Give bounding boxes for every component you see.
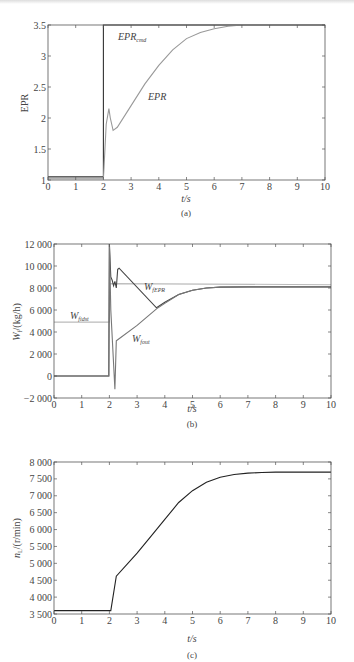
y-tick-label: 8 000	[30, 457, 53, 468]
x-tick-label: 1	[79, 615, 84, 626]
x-tick-label: 10	[326, 615, 336, 626]
y-tick-label: 8 000	[30, 283, 53, 294]
y-tick-label: −2 000	[24, 393, 52, 404]
y-tick-label: 4 500	[30, 575, 53, 586]
y-tick-label: 2 000	[30, 349, 53, 360]
axes-frame	[48, 25, 325, 180]
y-tick-label: 6 000	[30, 305, 53, 316]
y-tick-label: 1	[41, 175, 46, 186]
y-tick-label: 5 000	[30, 558, 53, 569]
y-tick-label: 10 000	[25, 261, 53, 272]
y-tick-label: 2.5	[34, 82, 47, 93]
label-w-fidst: Wfidst	[70, 310, 89, 322]
x-tick-label: 2	[107, 399, 112, 410]
x-tick-label: 6	[218, 615, 223, 626]
y-tick-label: 3.5	[34, 20, 47, 31]
series-line-epr	[48, 25, 325, 179]
x-tick-label: 6	[218, 399, 223, 410]
chart-spool-speed: 0123456789103 5004 0004 5005 0005 5006 0…	[0, 437, 354, 662]
x-tick-label: 8	[273, 615, 278, 626]
x-tick-label: 10	[320, 181, 330, 192]
x-tick-label: 9	[301, 615, 306, 626]
x-tick-label: 1	[79, 399, 84, 410]
label-w-fout: Wfout	[132, 333, 150, 345]
x-tick-label: 8	[273, 399, 278, 410]
x-axis-label: t/s	[187, 403, 197, 414]
label-epr-cmd: EPRcmd	[117, 31, 147, 43]
y-axis-label: EPR	[19, 94, 30, 113]
series-line-w-fout	[54, 244, 331, 389]
y-tick-label: 0	[47, 371, 52, 382]
x-tick-label: 5	[184, 181, 189, 192]
y-tick-label: 4 000	[30, 592, 53, 603]
chart-fuel-flow: 012345678910−2 00002 0004 0006 0008 0001…	[0, 222, 354, 432]
y-tick-label: 3 500	[30, 609, 53, 620]
x-axis-label: t/s	[187, 633, 197, 644]
y-tick-label: 4 000	[30, 327, 53, 338]
y-axis-label: nL/(r/min)	[11, 518, 23, 558]
x-tick-label: 0	[52, 399, 57, 410]
plot-area: 01234567891011.522.533.5	[34, 20, 331, 193]
x-tick-label: 7	[245, 399, 250, 410]
y-axis-label: Wf/(kg/h)	[11, 303, 23, 341]
series-line-w-fepr	[54, 244, 331, 376]
y-tick-label: 6 500	[30, 507, 53, 518]
y-tick-label: 12 000	[25, 239, 53, 250]
chart-epr: 01234567891011.522.533.5 EPR t/s (a) EPR…	[0, 0, 354, 218]
x-tick-label: 0	[46, 181, 51, 192]
x-tick-label: 7	[245, 615, 250, 626]
x-tick-label: 1	[73, 181, 78, 192]
x-tick-label: 5	[190, 615, 195, 626]
label-w-fepr: WfEPR	[144, 281, 165, 293]
y-tick-label: 3	[41, 51, 46, 62]
x-tick-label: 6	[212, 181, 217, 192]
caption-b: (b)	[187, 419, 198, 429]
x-tick-label: 4	[162, 615, 167, 626]
x-tick-label: 3	[135, 399, 140, 410]
plot-area: 012345678910−2 00002 0004 0006 0008 0001…	[24, 239, 336, 411]
axes-frame	[54, 244, 331, 398]
axes-frame	[54, 462, 331, 614]
label-epr: EPR	[147, 91, 166, 102]
x-tick-label: 8	[267, 181, 272, 192]
x-tick-label: 2	[107, 615, 112, 626]
y-tick-label: 6 000	[30, 524, 53, 535]
series-line-w-fidst	[54, 284, 331, 323]
x-tick-label: 9	[295, 181, 300, 192]
series-line-epr-cmd	[48, 25, 325, 177]
y-tick-label: 1.5	[34, 144, 47, 155]
x-tick-label: 4	[162, 399, 167, 410]
y-tick-label: 7 500	[30, 473, 53, 484]
series-line-n-l	[54, 472, 331, 610]
x-tick-label: 9	[301, 399, 306, 410]
x-tick-label: 10	[326, 399, 336, 410]
x-tick-label: 0	[52, 615, 57, 626]
caption-c: (c)	[187, 650, 197, 660]
x-axis-label: t/s	[181, 193, 191, 204]
y-tick-label: 7 000	[30, 490, 53, 501]
y-tick-label: 2	[41, 113, 46, 124]
x-tick-label: 4	[156, 181, 161, 192]
x-tick-label: 3	[129, 181, 134, 192]
x-tick-label: 2	[101, 181, 106, 192]
y-tick-label: 5 500	[30, 541, 53, 552]
caption-a: (a)	[181, 208, 191, 218]
x-tick-label: 7	[239, 181, 244, 192]
plot-area: 0123456789103 5004 0004 5005 0005 5006 0…	[30, 457, 337, 627]
x-tick-label: 3	[135, 615, 140, 626]
